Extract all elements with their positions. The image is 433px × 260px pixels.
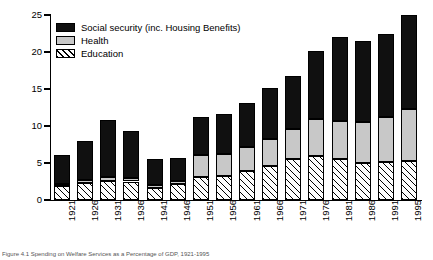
bar-segment-social bbox=[123, 131, 139, 178]
bar-segment-education bbox=[216, 176, 232, 200]
x-axis-tick-label: 1951 bbox=[205, 200, 215, 248]
x-axis-tick-label: 1976 bbox=[321, 200, 331, 248]
x-axis-tick-label: 1946 bbox=[182, 200, 192, 248]
bar-segment-social bbox=[401, 15, 417, 109]
bar-segment-health bbox=[77, 180, 93, 183]
bar-segment-health bbox=[170, 181, 186, 185]
bar-segment-education bbox=[262, 166, 278, 200]
bar-1961 bbox=[239, 0, 255, 200]
bar-segment-health bbox=[100, 177, 116, 181]
x-axis-tick-label: 1956 bbox=[228, 200, 238, 248]
x-axis-tick-label: 1981 bbox=[344, 200, 354, 248]
x-axis-tick-label: 1991 bbox=[390, 200, 400, 248]
figure-caption: Figure 4.1 Spending on Welfare Services … bbox=[2, 251, 432, 258]
bar-segment-health bbox=[308, 119, 324, 156]
bar-segment-social bbox=[216, 114, 232, 154]
bar-segment-social bbox=[355, 41, 371, 122]
bar-segment-health bbox=[193, 155, 209, 177]
legend-label: Social security (inc. Housing Benefits) bbox=[81, 23, 240, 33]
bar-segment-education bbox=[147, 188, 163, 200]
bar-1981 bbox=[332, 0, 348, 200]
bar-segment-health bbox=[54, 184, 70, 186]
legend-swatch-health bbox=[56, 36, 75, 45]
bar-segment-health bbox=[147, 185, 163, 188]
bar-segment-health bbox=[262, 139, 278, 166]
x-axis-tick-label: 1936 bbox=[136, 200, 146, 248]
x-axis-tick-label: 1986 bbox=[367, 200, 377, 248]
y-axis-line bbox=[50, 14, 51, 201]
y-axis-tick bbox=[44, 88, 50, 89]
legend-swatch-education bbox=[56, 49, 75, 58]
y-axis-tick-label: 25 bbox=[16, 10, 42, 20]
x-axis-tick-label: 1941 bbox=[159, 200, 169, 248]
bar-1971 bbox=[285, 0, 301, 200]
figure: Percentage of GDP 0510152025 19211926193… bbox=[0, 0, 433, 260]
bar-segment-education bbox=[77, 183, 93, 200]
y-axis-tick bbox=[44, 51, 50, 52]
y-axis-tick bbox=[44, 14, 50, 15]
bar-1986 bbox=[355, 0, 371, 200]
bar-segment-education bbox=[123, 182, 139, 201]
y-axis-tick-label: 15 bbox=[16, 84, 42, 94]
y-axis-tick-label: 10 bbox=[16, 121, 42, 131]
bar-segment-social bbox=[100, 120, 116, 177]
bar-segment-education bbox=[332, 159, 348, 200]
legend-label: Health bbox=[81, 36, 108, 46]
x-axis-tick-label: 1926 bbox=[90, 200, 100, 248]
bar-segment-health bbox=[401, 109, 417, 161]
bar-segment-education bbox=[100, 181, 116, 200]
x-axis-tick-label: 1995 bbox=[413, 200, 423, 248]
legend-item: Health bbox=[56, 35, 240, 47]
bar-segment-education bbox=[378, 162, 394, 200]
bar-segment-education bbox=[308, 156, 324, 200]
bar-segment-social bbox=[308, 51, 324, 118]
bar-segment-health bbox=[378, 117, 394, 161]
bar-1966 bbox=[262, 0, 278, 200]
bar-segment-health bbox=[123, 178, 139, 182]
bar-segment-health bbox=[285, 129, 301, 159]
x-axis-tick-label: 1921 bbox=[67, 200, 77, 248]
y-axis-tick bbox=[44, 199, 50, 200]
bar-segment-social bbox=[147, 159, 163, 185]
bar-segment-health bbox=[239, 147, 255, 171]
x-axis-tick-label: 1966 bbox=[275, 200, 285, 248]
bar-segment-health bbox=[216, 154, 232, 176]
y-axis-tick-label: 20 bbox=[16, 47, 42, 57]
bar-segment-social bbox=[285, 76, 301, 129]
legend-label: Education bbox=[81, 49, 123, 59]
y-axis-tick bbox=[44, 125, 50, 126]
bar-segment-education bbox=[401, 161, 417, 200]
bar-1991 bbox=[378, 0, 394, 200]
bar-segment-social bbox=[378, 34, 394, 117]
bar-segment-social bbox=[332, 37, 348, 121]
legend: Social security (inc. Housing Benefits)H… bbox=[56, 22, 240, 61]
x-axis-tick-label: 1931 bbox=[113, 200, 123, 248]
y-axis-tick-label: 0 bbox=[16, 195, 42, 205]
bar-segment-social bbox=[170, 158, 186, 181]
bar-segment-social bbox=[239, 103, 255, 147]
y-axis-tick-label: 5 bbox=[16, 158, 42, 168]
legend-swatch-social bbox=[56, 23, 75, 32]
bar-segment-social bbox=[77, 141, 93, 180]
bar-segment-education bbox=[54, 186, 70, 200]
legend-item: Education bbox=[56, 48, 240, 60]
bar-segment-social bbox=[193, 117, 209, 155]
bar-segment-education bbox=[355, 163, 371, 200]
bar-segment-education bbox=[170, 184, 186, 200]
bar-segment-health bbox=[355, 122, 371, 163]
bar-segment-education bbox=[285, 159, 301, 200]
bar-segment-education bbox=[239, 171, 255, 200]
bar-segment-social bbox=[54, 155, 70, 184]
bar-segment-social bbox=[262, 88, 278, 139]
bar-segment-education bbox=[193, 177, 209, 200]
x-axis-tick-label: 1961 bbox=[252, 200, 262, 248]
bar-1995 bbox=[401, 0, 417, 200]
x-axis-tick-label: 1971 bbox=[298, 200, 308, 248]
bar-1976 bbox=[308, 0, 324, 200]
y-axis-tick bbox=[44, 162, 50, 163]
legend-item: Social security (inc. Housing Benefits) bbox=[56, 22, 240, 34]
bar-segment-health bbox=[332, 121, 348, 159]
